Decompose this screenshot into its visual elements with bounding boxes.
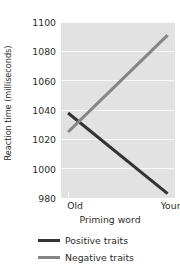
y-axis-tick-label: 1000 (32, 163, 56, 174)
legend-item[interactable]: Negative traits (0, 249, 180, 266)
y-axis-tick-label: 1020 (32, 134, 56, 145)
y-axis-tick-label: 1100 (32, 17, 56, 28)
y-axis-tick-label: 980 (38, 193, 56, 204)
legend-item-label: Negative traits (65, 252, 134, 263)
x-axis-tick-labels: OldYoung (61, 200, 180, 214)
data-line (68, 35, 168, 132)
legend-item[interactable]: Positive traits (0, 232, 180, 249)
chart-legend: Positive traitsNegative traits (0, 232, 180, 266)
x-axis-title: Priming word (40, 214, 180, 225)
legend-line-swatch (38, 256, 60, 259)
y-axis-title: Reaction time (milliseconds) (0, 0, 16, 206)
data-line (68, 113, 168, 194)
legend-line-swatch (38, 239, 60, 242)
y-axis-tick-label: 1080 (32, 46, 56, 57)
y-axis-tick-labels: 980100010201040106010801100 (16, 0, 59, 206)
x-axis-tick-mark (68, 192, 69, 198)
y-axis-tick-label: 1040 (32, 105, 56, 116)
x-axis-tick-label: Young (161, 200, 180, 211)
x-axis-tick-label: Old (67, 200, 83, 211)
y-axis-title-text: Reaction time (milliseconds) (3, 46, 13, 161)
chart-figure: Reaction time (milliseconds) 98010001020… (0, 0, 180, 270)
data-lines-group (61, 22, 175, 198)
legend-item-label: Positive traits (65, 235, 128, 246)
y-axis-tick-label: 1060 (32, 75, 56, 86)
plot-panel (61, 22, 175, 198)
